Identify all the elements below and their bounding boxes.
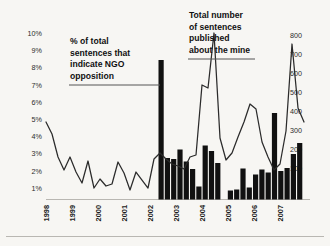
bar (272, 113, 277, 200)
right-axis-tick-label: 300 (290, 126, 302, 135)
x-axis-year-label: 2007 (276, 205, 285, 221)
left-annotation-line: opposition (70, 71, 114, 81)
bar (190, 169, 195, 200)
chart-canvas: 10% 9% 8% 7% 6% 5% 4% 3% 2% 1% 800 700 6… (0, 0, 330, 246)
bar (285, 168, 290, 200)
bar (196, 187, 201, 200)
x-axis-year-label: 2005 (224, 205, 233, 221)
bar (203, 146, 208, 200)
bar (234, 190, 239, 200)
right-annotation-line: Total number (189, 10, 243, 20)
x-axis-year-label: 2001 (120, 205, 129, 221)
x-axis-year-label: 2003 (172, 205, 181, 221)
right-annotation-line: of sentences (189, 22, 242, 32)
right-annotation-line: about the mine (189, 45, 250, 55)
figure-bottom-rule (6, 236, 324, 237)
x-axis-year-label: 1999 (68, 205, 77, 221)
bar (259, 170, 264, 200)
bar (228, 191, 233, 200)
bar (177, 150, 182, 200)
bar (266, 173, 271, 200)
x-axis-year-label: 2006 (250, 205, 259, 221)
bar (291, 154, 296, 200)
x-axis-year-label: 2004 (198, 204, 207, 221)
bar (247, 188, 252, 200)
left-axis-tick-label: 2% (32, 167, 43, 176)
left-axis-tick-label: 4% (32, 132, 43, 141)
bar (159, 60, 164, 200)
bar (297, 143, 302, 200)
left-axis-tick-label: 9% (32, 46, 43, 55)
right-axis-tick-label: 600 (290, 69, 302, 78)
left-axis-tick-label: 5% (32, 115, 43, 124)
x-axis-year-label: 1998 (42, 205, 51, 221)
left-axis-tick-label: 3% (32, 149, 43, 158)
left-annotation-line: % of total (70, 36, 109, 46)
bar (209, 151, 214, 200)
left-axis-tick-label: 10% (28, 29, 43, 38)
right-axis-tick-label: 800 (290, 31, 302, 40)
left-axis-tick-label: 6% (32, 98, 43, 107)
left-axis-tick-label: 1% (32, 184, 43, 193)
right-annotation-line: published (189, 33, 230, 43)
bar (253, 175, 258, 200)
left-annotation-line: indicate NGO (70, 59, 125, 69)
left-axis-tick-label: 8% (32, 63, 43, 72)
x-axis-year-label: 2002 (146, 205, 155, 221)
bar (215, 163, 220, 200)
left-axis-tick-label: 7% (32, 81, 43, 90)
x-axis-year-label: 2000 (94, 205, 103, 221)
bar (240, 169, 245, 200)
bar (165, 158, 170, 200)
chart-figure: 10% 9% 8% 7% 6% 5% 4% 3% 2% 1% 800 700 6… (0, 0, 330, 246)
bar (278, 171, 283, 200)
left-annotation-line: sentences that (70, 48, 130, 58)
